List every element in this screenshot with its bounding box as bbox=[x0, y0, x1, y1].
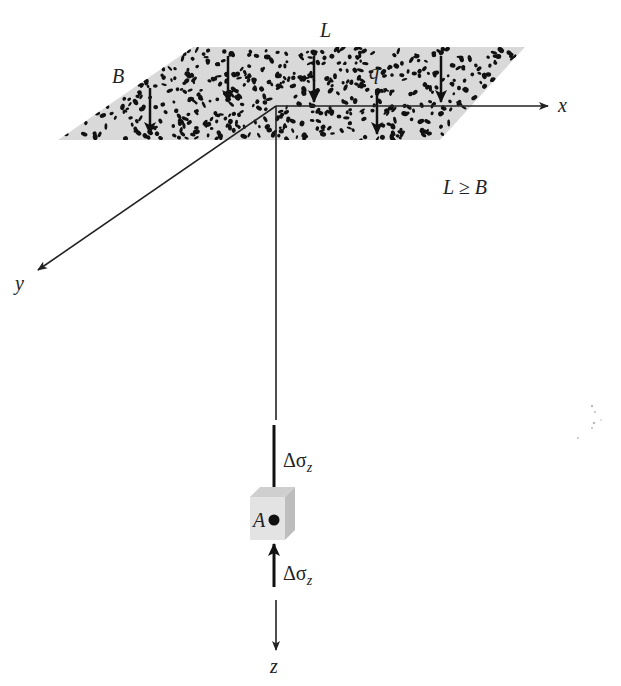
label-stress-top: Δσz bbox=[283, 449, 313, 475]
label-length: L bbox=[319, 19, 331, 41]
stress-diagram: L B q x y z L ≥ B A Δσz Δσz bbox=[0, 0, 621, 686]
label-width: B bbox=[112, 65, 124, 87]
stress-symbol: Δσ bbox=[283, 562, 307, 584]
label-y-axis: y bbox=[13, 272, 24, 295]
label-condition: L ≥ B bbox=[442, 176, 487, 198]
scan-noise bbox=[577, 405, 602, 439]
stress-subscript: z bbox=[306, 573, 313, 588]
point-a-dot bbox=[269, 515, 280, 526]
loaded-area-plate bbox=[58, 45, 525, 144]
speckle bbox=[222, 49, 226, 54]
speckle bbox=[232, 128, 236, 133]
stress-symbol: Δσ bbox=[283, 449, 307, 471]
svg-text:Δσz: Δσz bbox=[283, 562, 313, 588]
stress-subscript: z bbox=[306, 460, 313, 475]
svg-text:Δσz: Δσz bbox=[283, 449, 313, 475]
label-point-a: A bbox=[251, 509, 266, 531]
label-stress-bottom: Δσz bbox=[283, 562, 313, 588]
label-load: q bbox=[369, 61, 379, 84]
label-z-axis: z bbox=[269, 655, 278, 677]
label-x-axis: x bbox=[557, 94, 567, 116]
